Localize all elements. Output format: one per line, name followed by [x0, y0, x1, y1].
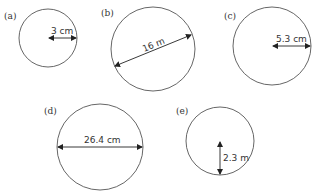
- figure-a-label: (a): [4, 11, 16, 21]
- figure-a: (a) 3 cm: [4, 9, 77, 67]
- measure-a: 3 cm: [51, 26, 73, 36]
- measure-c: 5.3 cm: [276, 34, 307, 44]
- circles-diagram: (a) 3 cm (b) 16 m (c) 5.3 cm (d) 26.4 cm…: [0, 0, 315, 193]
- figure-e-label: (e): [176, 106, 188, 116]
- figure-d-label: (d): [44, 106, 57, 116]
- measure-b: 16 m: [141, 36, 166, 54]
- figure-c: (c) 5.3 cm: [224, 7, 311, 85]
- figure-c-label: (c): [224, 11, 236, 21]
- figure-b-label: (b): [101, 8, 114, 18]
- figure-b: (b) 16 m: [101, 7, 195, 91]
- measure-e: 2.3 m: [223, 153, 249, 163]
- measure-d: 26.4 cm: [84, 135, 121, 145]
- figure-e: (e) 2.3 m: [176, 106, 254, 175]
- figure-d: (d) 26.4 cm: [44, 104, 143, 190]
